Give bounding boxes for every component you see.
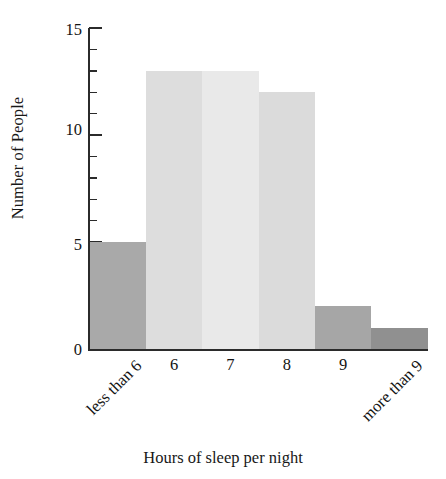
x-tick-label-7: 7 <box>200 355 260 375</box>
x-axis-title: Hours of sleep per night <box>0 448 446 468</box>
y-tick-label-5: 5 <box>48 235 82 255</box>
plot-area <box>88 28 428 349</box>
y-axis-title: Number of People <box>8 78 28 238</box>
y-tick-label-0: 0 <box>48 340 82 360</box>
bar-7 <box>202 71 258 349</box>
x-tick-label-8: 8 <box>257 355 317 375</box>
y-tick-label-15: 15 <box>48 20 82 40</box>
x-axis-line <box>88 349 428 351</box>
bar-9 <box>315 306 371 349</box>
bar-8 <box>259 92 315 349</box>
x-tick-label-6: 6 <box>144 355 204 375</box>
x-tick-label-less-than-6: less than 6 <box>61 356 146 441</box>
x-tick-label-9: 9 <box>313 355 373 375</box>
bar-chart: Number of People 15 10 5 0 less than 667… <box>0 0 446 479</box>
bar-series <box>90 28 428 349</box>
y-tick-label-10: 10 <box>48 120 82 140</box>
bar-less-than-6 <box>90 242 146 349</box>
bar-more-than-9 <box>371 328 427 349</box>
bar-6 <box>146 71 202 349</box>
